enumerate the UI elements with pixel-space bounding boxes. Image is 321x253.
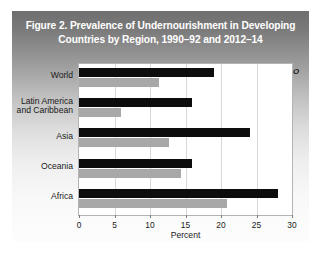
category-label: Oceania: [0, 162, 73, 172]
x-axis-tick-label: 10: [135, 220, 165, 230]
x-axis-tick: [292, 215, 293, 218]
bar: [79, 98, 192, 107]
bar: [79, 108, 121, 117]
x-axis-tick-label: 25: [242, 220, 272, 230]
category-label: Asia: [0, 132, 73, 142]
figure-panel: Figure 2. Prevalence of Undernourishment…: [12, 11, 309, 242]
figure-title-line-1: Figure 2. Prevalence of Undernourishment…: [20, 19, 301, 33]
x-axis-tick: [257, 215, 258, 218]
x-axis-tick: [221, 215, 222, 218]
x-axis-tick-label: 5: [100, 220, 130, 230]
category-label: Africa: [0, 192, 73, 202]
x-axis-tick-label: 15: [171, 220, 201, 230]
bar: [79, 189, 278, 198]
bar: [79, 138, 169, 147]
plot-area: [78, 63, 293, 216]
bar-group: [79, 185, 292, 215]
category-label-line: and Caribbean: [0, 106, 73, 116]
bar: [79, 199, 227, 208]
bar-group: [79, 64, 292, 94]
x-axis-tick: [79, 215, 80, 218]
bar-group: [79, 124, 292, 154]
x-axis-tick-label: 20: [206, 220, 236, 230]
bar-group: [79, 155, 292, 185]
x-axis-title: Percent: [78, 230, 293, 240]
bar: [79, 128, 250, 137]
x-axis-tick: [115, 215, 116, 218]
category-label: Latin Americaand Caribbean: [0, 97, 73, 116]
x-axis-tick: [186, 215, 187, 218]
plot-inner: [79, 64, 292, 215]
x-axis-tick: [150, 215, 151, 218]
x-axis-tick-label: 0: [64, 220, 94, 230]
bar: [79, 159, 192, 168]
category-label: World: [0, 71, 73, 81]
category-label-line: Africa: [0, 192, 73, 202]
figure-title: Figure 2. Prevalence of Undernourishment…: [20, 19, 301, 46]
category-label-line: Asia: [0, 132, 73, 142]
bar: [79, 78, 159, 87]
figure-title-line-2: Countries by Region, 1990–92 and 2012–14: [20, 33, 301, 47]
bar-group: [79, 94, 292, 124]
category-label-line: World: [0, 71, 73, 81]
category-label-line: Oceania: [0, 162, 73, 172]
bar: [79, 68, 214, 77]
x-axis-tick-label: 30: [277, 220, 307, 230]
bar: [79, 169, 181, 178]
